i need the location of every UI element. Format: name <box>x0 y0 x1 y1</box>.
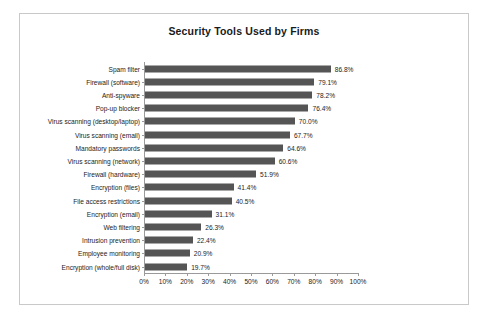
value-label: 26.3% <box>205 223 224 230</box>
value-label: 41.4% <box>238 184 257 191</box>
value-label: 78.2% <box>316 91 335 98</box>
x-axis-tick-label: 20% <box>180 278 193 285</box>
bar-row: Employee monitoring20.9% <box>144 247 358 260</box>
category-label: Spam filter <box>108 65 140 72</box>
bar-row: Spam filter86.8% <box>144 62 358 75</box>
x-axis-tick <box>208 273 209 276</box>
value-label: 70.0% <box>299 118 318 125</box>
y-axis-tick <box>142 253 144 254</box>
x-axis-tick-label: 90% <box>330 278 343 285</box>
bar-row: File access restrictions40.5% <box>144 194 358 207</box>
bar <box>145 118 295 125</box>
bar-row: Encryption (whole/full disk)19.7% <box>144 260 358 273</box>
bar-row: Virus scanning (network)60.6% <box>144 154 358 167</box>
y-axis-tick <box>142 174 144 175</box>
bar-row: Intrusion prevention22.4% <box>144 234 358 247</box>
bar <box>145 91 312 98</box>
y-axis-tick <box>142 201 144 202</box>
bar-row: Mandatory passwords64.6% <box>144 141 358 154</box>
bar-row: Anti-spyware78.2% <box>144 88 358 101</box>
chart-title: Security Tools Used by Firms <box>20 25 468 37</box>
category-label: Firewall (software) <box>86 78 140 85</box>
value-label: 19.7% <box>191 263 210 270</box>
bar-row: Virus scanning (desktop/laptop)70.0% <box>144 115 358 128</box>
y-axis-tick <box>142 148 144 149</box>
x-axis-tick <box>358 273 359 276</box>
bar <box>145 171 256 178</box>
bar <box>145 105 308 112</box>
category-label: Web filtering <box>103 223 140 230</box>
category-label: Pop-up blocker <box>96 105 140 112</box>
value-label: 86.8% <box>335 65 354 72</box>
x-axis-tick <box>165 273 166 276</box>
bar <box>145 65 331 72</box>
y-axis-tick <box>142 187 144 188</box>
x-axis-tick-label: 60% <box>266 278 279 285</box>
value-label: 40.5% <box>236 197 255 204</box>
y-axis-tick <box>142 240 144 241</box>
x-axis-tick <box>294 273 295 276</box>
bar <box>145 263 187 270</box>
value-label: 79.1% <box>318 78 337 85</box>
y-axis-tick <box>142 121 144 122</box>
bar-row: Firewall (software)79.1% <box>144 75 358 88</box>
bar <box>145 197 232 204</box>
x-axis-tick-label: 10% <box>159 278 172 285</box>
category-label: Virus scanning (email) <box>75 131 140 138</box>
y-axis-tick <box>142 95 144 96</box>
value-label: 67.7% <box>294 131 313 138</box>
x-axis-tick-label: 0% <box>139 278 149 285</box>
x-axis-tick <box>230 273 231 276</box>
category-label: Firewall (hardware) <box>84 171 140 178</box>
x-axis-tick-label: 40% <box>223 278 236 285</box>
bar <box>145 210 212 217</box>
chart-frame: Security Tools Used by Firms Spam filter… <box>19 13 469 305</box>
bar-row: Encryption (email)31.1% <box>144 207 358 220</box>
x-axis-tick-label: 50% <box>244 278 257 285</box>
bar <box>145 237 193 244</box>
value-label: 76.4% <box>312 105 331 112</box>
x-axis-tick-label: 70% <box>287 278 300 285</box>
bar <box>145 78 314 85</box>
bar-row: Web filtering26.3% <box>144 220 358 233</box>
bar <box>145 144 283 151</box>
y-axis-tick <box>142 267 144 268</box>
bar <box>145 157 275 164</box>
bar <box>145 250 190 257</box>
x-axis-tick <box>337 273 338 276</box>
category-label: Employee monitoring <box>78 250 140 257</box>
bar <box>145 223 201 230</box>
category-label: Mandatory passwords <box>75 144 140 151</box>
bar-row: Encryption (files)41.4% <box>144 181 358 194</box>
y-axis-tick <box>142 214 144 215</box>
bar <box>145 131 290 138</box>
y-axis-tick <box>142 108 144 109</box>
category-label: Encryption (whole/full disk) <box>62 263 140 270</box>
category-label: File access restrictions <box>73 197 140 204</box>
plot-area: Spam filter86.8%Firewall (software)79.1%… <box>144 62 358 273</box>
y-axis-tick <box>142 161 144 162</box>
x-axis-tick-label: 80% <box>309 278 322 285</box>
bar-row: Virus scanning (email)67.7% <box>144 128 358 141</box>
y-axis-tick <box>142 227 144 228</box>
value-label: 20.9% <box>194 250 213 257</box>
x-axis-tick-label: 100% <box>350 278 367 285</box>
x-axis-tick <box>144 273 145 276</box>
value-label: 22.4% <box>197 237 216 244</box>
value-label: 60.6% <box>279 157 298 164</box>
bar-row: Firewall (hardware)51.9% <box>144 168 358 181</box>
x-axis-tick <box>251 273 252 276</box>
x-axis-tick <box>187 273 188 276</box>
category-label: Virus scanning (network) <box>68 157 140 164</box>
x-axis-tick-label: 30% <box>202 278 215 285</box>
value-label: 31.1% <box>216 210 235 217</box>
category-label: Encryption (email) <box>87 210 140 217</box>
bar-row: Pop-up blocker76.4% <box>144 102 358 115</box>
value-label: 64.6% <box>287 144 306 151</box>
bar <box>145 184 234 191</box>
category-label: Intrusion prevention <box>82 237 140 244</box>
x-axis-tick <box>315 273 316 276</box>
y-axis-tick <box>142 82 144 83</box>
category-label: Virus scanning (desktop/laptop) <box>48 118 140 125</box>
category-label: Anti-spyware <box>102 91 140 98</box>
